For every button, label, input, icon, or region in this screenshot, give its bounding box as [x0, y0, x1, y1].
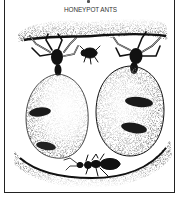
replete-ant-left-thorax	[51, 49, 63, 65]
worker-ant	[64, 154, 120, 176]
small-ant-top	[80, 46, 100, 64]
replete-ant-left-abdomen	[26, 74, 88, 158]
replete-ant-right-abdomen	[96, 66, 164, 156]
replete-ant-right-thorax	[130, 48, 143, 64]
honeypot-ants-illustration	[0, 0, 181, 198]
